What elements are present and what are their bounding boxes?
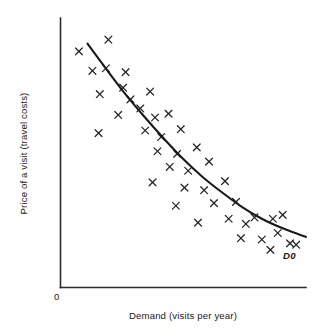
scatter-point: [279, 211, 286, 218]
scatter-point: [152, 114, 159, 121]
chart-figure: Price of a visit (travel costs) Demand (…: [0, 0, 313, 332]
scatter-point: [95, 130, 102, 137]
scatter-point: [222, 178, 229, 185]
scatter-point: [142, 127, 149, 134]
scatter-point: [258, 236, 265, 243]
scatter-point: [201, 187, 208, 194]
scatter-point: [105, 36, 112, 43]
scatter-point: [76, 48, 83, 55]
scatter-point: [177, 126, 184, 133]
scatter-point: [225, 215, 232, 222]
demand-curve-d0: [88, 44, 307, 237]
scatter-point: [89, 67, 96, 74]
scatter-plot-canvas: [0, 0, 313, 332]
scatter-point: [267, 246, 274, 253]
y-axis-label: Price of a visit (travel costs): [18, 69, 29, 239]
scatter-point: [149, 179, 156, 186]
scatter-point: [154, 148, 161, 155]
scatter-point: [166, 163, 173, 170]
scatter-point: [147, 88, 154, 95]
scatter-point: [181, 184, 188, 191]
scatter-point: [274, 230, 281, 237]
scatter-point: [165, 110, 172, 117]
scatter-point: [193, 144, 200, 151]
scatter-point: [293, 241, 300, 248]
scatter-point: [238, 235, 245, 242]
demand-curve-label: D0: [283, 250, 296, 261]
scatter-point: [122, 69, 129, 76]
scatter-point: [269, 215, 276, 222]
scatter-point: [96, 91, 103, 98]
origin-label: 0: [54, 291, 59, 302]
scatter-point: [242, 221, 249, 228]
scatter-point: [211, 200, 218, 207]
scatter-point: [185, 167, 192, 174]
scatter-point: [115, 112, 122, 119]
x-axis-label: Demand (visits per year): [60, 310, 306, 321]
scatter-point: [206, 158, 213, 165]
scatter-point: [195, 219, 202, 226]
scatter-point: [172, 202, 179, 209]
